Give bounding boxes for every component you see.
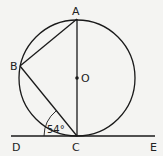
chord-ab [20, 19, 77, 66]
label-b: B [10, 60, 18, 73]
label-a: A [72, 5, 80, 18]
center-dot [75, 76, 79, 80]
label-e: E [150, 141, 157, 154]
geometry-diagram: A B O C D E 54° [0, 0, 163, 156]
angle-label: 54° [47, 124, 65, 135]
label-o: O [81, 72, 90, 85]
label-d: D [12, 141, 20, 154]
label-c: C [72, 141, 80, 154]
